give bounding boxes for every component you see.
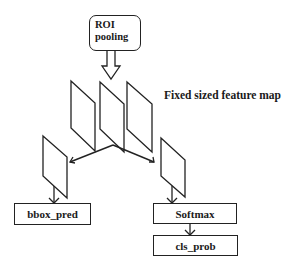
bbox-pred-box: bbox_pred [14, 203, 91, 225]
feature-map-label: Fixed sized feature map [164, 89, 281, 101]
roi-pooling-box: ROI pooling [89, 15, 141, 51]
feature-map-3 [127, 82, 152, 152]
roi-line1: ROI [95, 19, 140, 31]
hollow-arrow-icon [102, 51, 120, 79]
cls-prob-box: cls_prob [153, 235, 238, 256]
softmax-box: Softmax [153, 203, 237, 224]
fc-layer-right [161, 138, 185, 197]
roi-line2: pooling [95, 31, 140, 43]
feature-map-1 [71, 81, 95, 151]
diagram-canvas [0, 0, 302, 269]
feature-map-2 [100, 82, 124, 152]
fc-layer-left [43, 136, 67, 198]
